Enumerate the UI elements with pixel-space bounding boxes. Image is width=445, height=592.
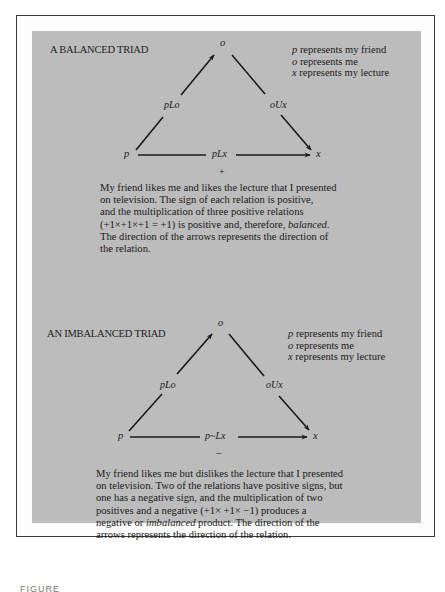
arrow-p-to-o-lower xyxy=(129,394,162,431)
relation-pLo: pLo xyxy=(164,99,180,110)
node-o: o xyxy=(220,37,225,48)
relation-pNotLx: p~Lx xyxy=(205,430,225,441)
imbalanced-legend: p represents my friend o represents me x… xyxy=(288,328,385,363)
arrow-p-to-o-upper xyxy=(177,334,212,374)
emphasis-balanced: balanced. xyxy=(288,219,329,230)
relation-pLx: pLx xyxy=(212,148,227,159)
relation-oUx: oUx xyxy=(270,99,287,110)
node-x: x xyxy=(313,430,318,441)
emphasis-imbalanced: imbalanced xyxy=(146,517,195,528)
relation-pLo: pLo xyxy=(160,379,176,390)
arrow-p-to-o-upper xyxy=(181,55,214,95)
relation-oUx: oUx xyxy=(266,379,283,390)
arrow-o-to-x-upper xyxy=(229,334,264,376)
legend-item: x represents my lecture xyxy=(288,351,385,363)
product-sign-positive: + xyxy=(219,166,225,177)
figure-caption: FIGURE xyxy=(20,584,60,592)
arrow-o-to-x-lower xyxy=(281,115,311,150)
imbalanced-triad-title: AN IMBALANCED TRIAD xyxy=(47,328,166,339)
legend-item: o represents me xyxy=(292,56,389,68)
node-x: x xyxy=(316,148,321,159)
balanced-triad-title: A BALANCED TRIAD xyxy=(50,44,148,55)
imbalanced-explanation: My friend likes me but dislikes the lect… xyxy=(96,468,343,541)
balanced-explanation: My friend likes me and likes the lecture… xyxy=(100,182,337,255)
node-p: p xyxy=(118,430,123,441)
legend-item: x represents my lecture xyxy=(292,67,389,79)
product-sign-negative: – xyxy=(216,447,221,458)
legend-item: o represents me xyxy=(288,340,385,352)
node-o: o xyxy=(218,317,223,328)
arrow-o-to-x-lower xyxy=(279,396,309,430)
arrow-p-to-o-lower xyxy=(136,117,163,150)
arrow-o-to-x-upper xyxy=(232,55,265,94)
node-p: p xyxy=(124,148,129,159)
legend-item: p represents my friend xyxy=(292,44,389,56)
legend-item: p represents my friend xyxy=(288,328,385,340)
balanced-legend: p represents my friend o represents me x… xyxy=(292,44,389,79)
